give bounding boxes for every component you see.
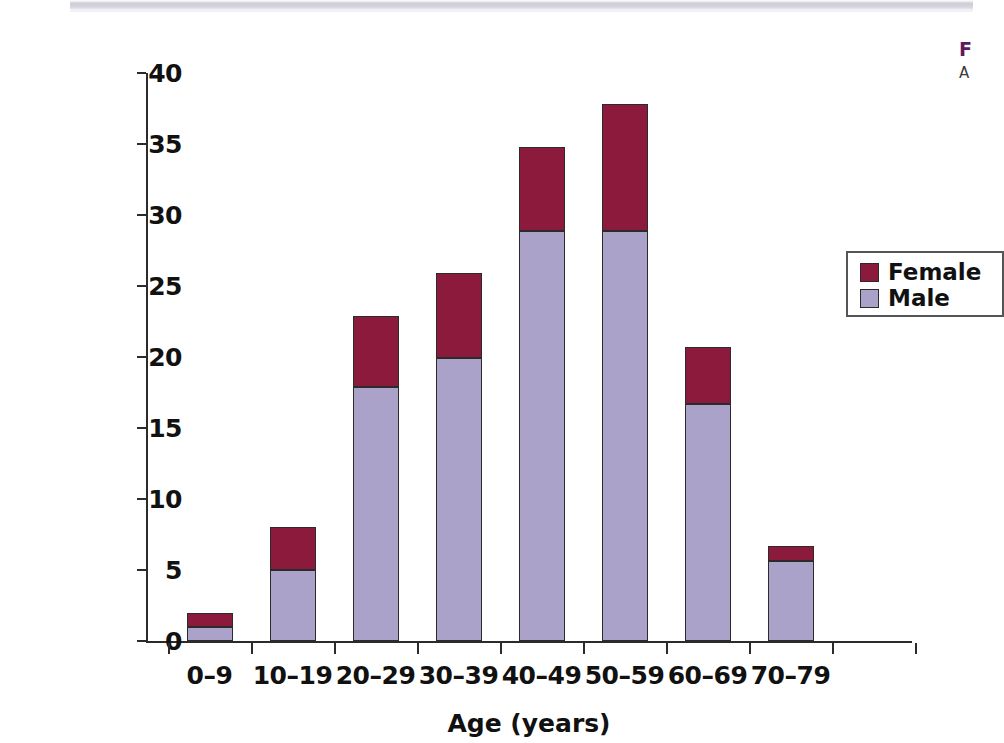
y-axis-tick-label: 5 [122,556,182,585]
y-axis-tick-label: 15 [122,414,182,443]
legend-item[interactable]: Male [860,285,1002,311]
x-axis-tick [168,643,170,654]
x-axis-tick-label: 30–39 [419,661,499,690]
bar-segment-female[interactable] [768,546,814,562]
legend-box: FemaleMale [846,251,1004,317]
bar-group[interactable] [270,527,316,641]
x-axis-tick [500,643,502,654]
y-axis-tick-label: 30 [122,201,182,230]
plot-area: 0510152025303540 0–910–1920–2930–3940–49… [146,73,912,641]
legend-swatch-male [860,289,879,308]
x-axis-tick [666,643,668,654]
bar-segment-male[interactable] [519,231,565,641]
x-axis-tick [749,643,751,654]
caption-body: A i e [959,64,973,83]
bar-segment-female[interactable] [270,527,316,570]
x-axis-line [146,641,912,643]
y-axis-tick-labels: 0510152025303540 [122,73,182,641]
y-axis-tick-label: 0 [122,627,182,656]
x-axis-tick [251,643,253,654]
legend-item[interactable]: Female [860,259,1002,285]
x-axis-tick-label: 20–29 [336,661,416,690]
x-axis-tick [334,643,336,654]
bar-group[interactable] [685,347,731,641]
bar-group[interactable] [768,546,814,641]
x-axis-tick-label: 0–9 [187,661,233,690]
y-axis-tick-label: 10 [122,485,182,514]
bar-segment-male[interactable] [187,627,233,641]
bar-segment-female[interactable] [602,104,648,230]
bar-segment-female[interactable] [519,147,565,231]
bar-segment-male[interactable] [685,404,731,641]
y-axis-tick-label: 35 [122,130,182,159]
bar-group[interactable] [353,316,399,641]
bar-group[interactable] [187,613,233,641]
x-axis-tick-label: 50–59 [585,661,665,690]
y-axis-tick-label: 40 [122,59,182,88]
bar-segment-female[interactable] [187,613,233,627]
bar-segment-female[interactable] [436,273,482,358]
bar-group[interactable] [602,104,648,641]
y-axis-tick-label: 20 [122,343,182,372]
bar-segment-male[interactable] [353,387,399,641]
bar-segment-male[interactable] [768,561,814,641]
bar-group[interactable] [519,147,565,641]
x-axis-tick [583,643,585,654]
x-axis-tick [832,643,834,654]
legend-label: Female [888,261,981,284]
x-axis-title: Age (years) [447,709,610,738]
caption-heading: F [959,38,972,60]
x-axis-tick-label: 70–79 [751,661,831,690]
x-axis-tick [915,643,917,654]
bar-segment-female[interactable] [685,347,731,404]
bar-segment-male[interactable] [270,570,316,641]
x-axis-tick-label: 40–49 [502,661,582,690]
y-axis-tick-label: 25 [122,272,182,301]
legend-swatch-female [860,263,879,282]
bar-segment-male[interactable] [436,358,482,641]
figure-caption-cropped: F A i e [957,38,973,130]
x-axis-tick-label: 60–69 [668,661,748,690]
bar-segment-female[interactable] [353,316,399,387]
legend-label: Male [888,287,950,310]
x-axis-tick [417,643,419,654]
bar-segment-male[interactable] [602,231,648,641]
bar-group[interactable] [436,273,482,641]
x-axis-tick-label: 10–19 [253,661,333,690]
